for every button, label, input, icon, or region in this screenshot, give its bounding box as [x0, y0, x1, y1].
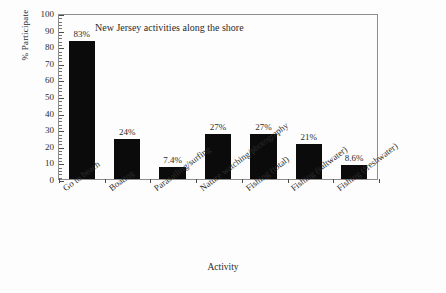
bar-value-label: 83% — [73, 29, 90, 39]
bar-chart-figure: New Jersey activities along the shore % … — [0, 0, 446, 293]
y-tick-label: 40 — [45, 109, 54, 120]
y-tick-label: 10 — [45, 158, 54, 169]
x-tick-mark — [379, 179, 380, 183]
x-tick-mark — [242, 179, 243, 183]
y-tick-label: 90 — [45, 26, 54, 37]
bar-value-label: 21% — [301, 132, 318, 142]
y-tick-label: 20 — [45, 142, 54, 153]
y-tick-label: 80 — [45, 42, 54, 53]
bar-slot: 21% — [286, 15, 331, 179]
y-tick-label: 0 — [50, 175, 55, 186]
x-tick-mark — [333, 179, 334, 183]
bar-slot: 24% — [104, 15, 149, 179]
x-tick-mark — [150, 179, 151, 183]
y-tick-label: 100 — [41, 9, 55, 20]
y-tick-label: 60 — [45, 75, 54, 86]
bar-value-label: 24% — [119, 127, 136, 137]
bar-slot: 83% — [59, 15, 104, 179]
y-tick-label: 50 — [45, 92, 54, 103]
y-tick-label: 70 — [45, 59, 54, 70]
bar-slot: 7.4% — [150, 15, 195, 179]
x-tick-mark — [288, 179, 289, 183]
x-axis-title: Activity — [0, 262, 446, 272]
y-axis-title: % Participate — [20, 0, 30, 95]
x-tick-mark — [59, 179, 60, 183]
x-tick-mark — [196, 179, 197, 183]
x-tick-mark — [105, 179, 106, 183]
bar[interactable]: 83% — [69, 41, 95, 179]
bar-value-label: 27% — [210, 122, 227, 132]
y-tick-label: 30 — [45, 125, 54, 136]
bar-value-label: 8.6% — [345, 153, 364, 163]
